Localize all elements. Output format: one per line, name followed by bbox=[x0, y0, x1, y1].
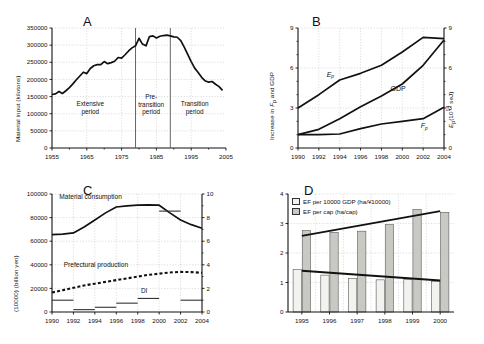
y-tick-label-right: 6 bbox=[449, 64, 453, 71]
y-tick-label: 350000 bbox=[27, 24, 48, 31]
bar-1999-ef-per-cap bbox=[413, 209, 421, 312]
panel-a-letter: A bbox=[83, 14, 92, 29]
x-tick-label: 1999 bbox=[406, 317, 420, 324]
y-tick-label-right: 4 bbox=[207, 261, 211, 268]
annotation-transition-period: Transition bbox=[181, 100, 209, 107]
panel-a: A Material input (kilotons) 050000100000… bbox=[0, 0, 242, 172]
series-fp bbox=[298, 107, 444, 134]
x-tick-label: 2004 bbox=[437, 153, 451, 160]
y-tick-label-left: 60000 bbox=[30, 237, 48, 244]
annotation-transition-period: period bbox=[186, 108, 204, 116]
x-tick-label: 1998 bbox=[375, 153, 389, 160]
bar-2000-ef-per-gdp bbox=[431, 281, 439, 312]
legend-swatch-ef-per-gdp bbox=[292, 198, 300, 205]
series-label-ep: Ep bbox=[327, 71, 335, 80]
bar-1997-ef-per-gdp bbox=[348, 278, 356, 312]
annotation-extensive-period: Extensive bbox=[76, 100, 104, 107]
x-tick-label: 1994 bbox=[333, 153, 347, 160]
y-tick-label: 300000 bbox=[27, 41, 48, 48]
y-tick-label: 50000 bbox=[30, 127, 48, 134]
x-tick-label: 1996 bbox=[354, 153, 368, 160]
panel-c-plot: 0200004000060000800001000000246810199019… bbox=[0, 172, 242, 344]
y-tick-label: 0 bbox=[44, 144, 48, 151]
x-tick-label: 2000 bbox=[395, 153, 409, 160]
y-tick-label-right: 10 bbox=[207, 190, 214, 197]
y-tick-label-right: 6 bbox=[207, 237, 211, 244]
panel-d-legend: EF per 10000 GDP (ha/¥10000) EF per cap … bbox=[292, 197, 391, 217]
x-tick-label: 2000 bbox=[152, 317, 166, 324]
panel-d-letter: D bbox=[304, 183, 313, 198]
annotation-extensive-period: period bbox=[81, 108, 99, 116]
x-tick-label: 2002 bbox=[174, 317, 188, 324]
x-tick-label: 1965 bbox=[80, 153, 94, 160]
y-tick-label-left: 80000 bbox=[30, 214, 48, 221]
y-tick-label: 100000 bbox=[27, 110, 48, 117]
y-tick-label-left: 40000 bbox=[30, 261, 48, 268]
series-material-input bbox=[52, 35, 223, 94]
panel-d: D 01234199519961997199819992000 EF per 1… bbox=[242, 172, 484, 344]
series-label-prefectural-production: Prefectural production bbox=[64, 261, 129, 269]
x-tick-label: 1955 bbox=[45, 153, 59, 160]
annotation-pre-transition-period: Pre- bbox=[145, 93, 157, 100]
legend-swatch-ef-per-cap bbox=[292, 208, 300, 215]
legend-item-ef-per-gdp: EF per 10000 GDP (ha/¥10000) bbox=[292, 197, 391, 206]
y-tick-label-left: 0 bbox=[44, 308, 48, 315]
annotation-pre-transition-period: transition bbox=[138, 101, 164, 108]
annotation-pre-transition-period: period bbox=[142, 108, 160, 116]
bar-2000-ef-per-cap bbox=[441, 212, 449, 312]
x-tick-label: 1998 bbox=[378, 317, 392, 324]
legend-item-ef-per-cap: EF per cap (ha/cap) bbox=[292, 207, 391, 216]
y-tick-label: 2 bbox=[280, 249, 284, 256]
y-tick-label-left: 9 bbox=[290, 24, 294, 31]
x-tick-label: 1994 bbox=[88, 317, 102, 324]
y-tick-label-left: 6 bbox=[290, 64, 294, 71]
panel-b-y-axis-title-right: Ep(1014 seJ) bbox=[445, 92, 456, 128]
y-tick-label: 0 bbox=[280, 308, 284, 315]
y-tick-label: 150000 bbox=[27, 93, 48, 100]
x-tick-label: 1996 bbox=[323, 317, 337, 324]
x-tick-label: 2004 bbox=[195, 317, 209, 324]
y-tick-label: 3 bbox=[280, 220, 284, 227]
panel-b-letter: B bbox=[312, 14, 321, 29]
x-tick-label: 1995 bbox=[295, 317, 309, 324]
legend-label-ef-per-cap: EF per cap (ha/cap) bbox=[303, 208, 358, 215]
y-tick-label: 200000 bbox=[27, 76, 48, 83]
legend-label-ef-per-gdp: EF per 10000 GDP (ha/¥10000) bbox=[303, 198, 391, 205]
y-tick-label-right: 2 bbox=[207, 285, 211, 292]
x-tick-label: 2000 bbox=[433, 317, 447, 324]
bar-1998-ef-per-gdp bbox=[376, 280, 384, 312]
x-tick-label: 1997 bbox=[350, 317, 364, 324]
y-tick-label-left: 3 bbox=[290, 104, 294, 111]
y-tick-label: 1 bbox=[280, 279, 284, 286]
x-tick-label: 1996 bbox=[109, 317, 123, 324]
x-tick-label: 1990 bbox=[291, 153, 305, 160]
series-label-fp: Fp bbox=[421, 122, 428, 131]
y-tick-label-left: 100000 bbox=[27, 190, 48, 197]
bar-1999-ef-per-gdp bbox=[404, 279, 412, 312]
bar-1995-ef-per-gdp bbox=[293, 270, 301, 312]
panel-c-letter: C bbox=[83, 183, 92, 198]
panel-b: B Increase in Fp and GDP Ep(1014 seJ) 03… bbox=[242, 0, 484, 172]
panel-b-y-axis-title-left: Increase in Fp and GDP bbox=[268, 72, 277, 140]
bar-1996-ef-per-gdp bbox=[321, 275, 329, 312]
y-tick-label-right: 0 bbox=[207, 308, 211, 315]
panel-a-y-axis-title: Material input (kilotons) bbox=[14, 76, 21, 142]
y-tick-label-right: 9 bbox=[449, 24, 453, 31]
y-tick-label-left: 0 bbox=[290, 144, 294, 151]
series-label-gdp: GDP bbox=[391, 85, 407, 92]
x-tick-label: 1992 bbox=[67, 317, 81, 324]
x-tick-label: 1992 bbox=[312, 153, 326, 160]
x-tick-label: 1975 bbox=[115, 153, 129, 160]
bar-1997-ef-per-cap bbox=[358, 231, 366, 312]
y-tick-label-left: 20000 bbox=[30, 285, 48, 292]
y-tick-label-right: 8 bbox=[207, 214, 211, 221]
series-label-di: DI bbox=[141, 287, 148, 294]
x-tick-label: 1998 bbox=[131, 317, 145, 324]
panel-c: C (10000) (billion yen) 0200004000060000… bbox=[0, 172, 242, 344]
series-prefectural-production bbox=[52, 272, 202, 293]
x-tick-label: 1985 bbox=[150, 153, 164, 160]
y-tick-label: 4 bbox=[280, 190, 284, 197]
x-tick-label: 1990 bbox=[45, 317, 59, 324]
series-material-consumption bbox=[52, 205, 202, 235]
series-ep bbox=[298, 37, 444, 108]
